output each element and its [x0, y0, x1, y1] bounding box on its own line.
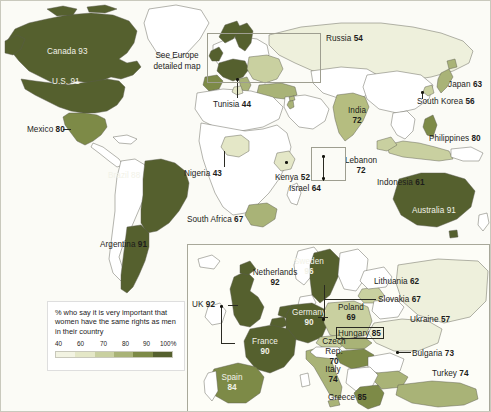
label-poland-value: 69: [346, 313, 355, 322]
country-south-africa: [245, 203, 277, 227]
label-bulgaria-name: Bulgaria: [412, 349, 442, 358]
leader-line-bulgaria: [399, 352, 411, 353]
label-argentina: Argentina 91: [100, 240, 147, 250]
legend-swatch-1: [56, 352, 75, 357]
label-israel-name: Israel: [289, 184, 309, 193]
label-sweden-name: Sweden: [294, 257, 324, 266]
label-canada: Canada 93: [47, 47, 88, 57]
leader-line-czech-v: [324, 298, 325, 320]
label-poland: Poland 69: [330, 303, 372, 323]
island-iceland: [198, 255, 220, 269]
dot-tunisia: [236, 78, 239, 81]
leader-line-tunisia: [237, 80, 238, 98]
label-argentina-value: 91: [138, 240, 147, 249]
label-lithuania-value: 62: [410, 277, 419, 286]
legend-color-bar: [55, 351, 173, 358]
label-india-value: 72: [352, 116, 361, 125]
legend-tick-40: 40: [55, 340, 62, 347]
label-ukraine: Ukraine 57: [410, 315, 450, 325]
label-nigeria: Nigeria 43: [184, 169, 222, 179]
label-germany: Germany 90: [284, 308, 334, 328]
legend-swatch-6: [153, 352, 172, 357]
country-indonesia: [387, 141, 453, 161]
label-turkey: Turkey 74: [432, 369, 469, 379]
label-italy: Italy 74: [316, 365, 350, 385]
label-greece-value: 85: [357, 393, 366, 402]
legend-title: % who say it is very important that wome…: [55, 308, 177, 336]
europe-detail-inset: UK 92 Netherlands 92 Sweden 96 Germany 9…: [187, 244, 490, 412]
label-australia: Australia 91: [412, 206, 456, 216]
label-south-africa-value: 67: [234, 215, 243, 224]
label-brazil: Brazil 88: [108, 171, 140, 181]
label-south-korea: South Korea 56: [417, 97, 475, 107]
label-bulgaria: Bulgaria 73: [412, 349, 454, 359]
country-spain-main: [203, 75, 223, 91]
label-lebanon-value: 72: [356, 166, 365, 175]
europe-detail-callout[interactable]: See Europe detailed map: [143, 51, 211, 72]
dot-lebanon: [322, 155, 325, 158]
label-slovakia: Slovakia 67: [378, 295, 421, 305]
country-new-zealand: [478, 213, 489, 231]
region-indochina: [391, 111, 415, 139]
label-india-name: India: [348, 106, 366, 115]
label-spain-name: Spain: [221, 373, 242, 382]
label-us: U.S. 91: [52, 77, 80, 87]
legend-ticks: 40 60 70 80 90 100%: [55, 340, 177, 350]
label-slovakia-name: Slovakia: [378, 295, 409, 304]
label-nigeria-value: 43: [213, 169, 222, 178]
europe-callout-line2: detailed map: [154, 62, 201, 71]
label-uk: UK 92: [192, 300, 215, 310]
label-france-value: 90: [260, 347, 269, 356]
label-philippines: Philippines 80: [429, 134, 481, 144]
legend-tick-80: 80: [122, 340, 129, 347]
label-philippines-value: 80: [471, 134, 480, 143]
label-france: France 90: [242, 337, 288, 357]
legend-swatch-3: [95, 352, 114, 357]
label-nigeria-name: Nigeria: [184, 169, 210, 178]
label-kenya-name: Kenya: [275, 173, 298, 182]
legend-swatch-2: [75, 352, 94, 357]
label-south-korea-value: 56: [465, 97, 474, 106]
label-russia-value: 54: [354, 34, 363, 43]
label-uk-value: 92: [206, 300, 215, 309]
label-japan-value: 63: [473, 80, 482, 89]
label-tunisia-value: 44: [242, 100, 251, 109]
label-france-name: France: [252, 337, 278, 346]
label-israel: Israel 64: [289, 184, 321, 194]
label-greece-name: Greece: [328, 393, 355, 402]
legend-swatch-5: [133, 352, 152, 357]
legend-tick-70: 70: [100, 340, 107, 347]
leader-line-slovakia-h: [324, 299, 376, 300]
label-uk-name: UK: [192, 300, 203, 309]
map-figure: UK 92 Netherlands 92 Sweden 96 Germany 9…: [0, 0, 491, 412]
country-turkey: [396, 381, 478, 407]
label-italy-value: 74: [328, 375, 337, 384]
island-sardinia: [300, 373, 310, 387]
label-sweden-value: 96: [304, 267, 313, 276]
label-lebanon-name: Lebanon: [345, 156, 377, 165]
country-lebanon: [289, 96, 295, 101]
island-tasmania: [449, 230, 458, 238]
label-greece: Greece 85: [328, 393, 367, 403]
label-japan: Japan 63: [448, 80, 482, 90]
legend-tick-90: 90: [143, 340, 150, 347]
country-japan-north: [447, 59, 457, 69]
label-lithuania: Lithuania 62: [374, 277, 419, 287]
label-lithuania-name: Lithuania: [374, 277, 408, 286]
country-russia-west: [396, 259, 488, 323]
leader-line-mexico: [63, 129, 71, 130]
label-russia: Russia 54: [326, 34, 363, 44]
label-lebanon: Lebanon 72: [339, 156, 383, 176]
europe-callout-line1: See Europe: [155, 51, 198, 60]
label-germany-value: 90: [304, 318, 313, 327]
label-spain: Spain 84: [212, 373, 252, 393]
label-russia-name: Russia: [326, 34, 351, 43]
label-tunisia: Tunisia 44: [213, 100, 251, 110]
leader-line-nigeria: [224, 151, 225, 167]
leader-line-czech-stem: [221, 307, 222, 343]
leader-line-slovakia-v: [324, 285, 325, 299]
leader-line-south-korea: [422, 93, 423, 99]
legend-tick-60: 60: [77, 340, 84, 347]
label-czech-value: 70: [329, 357, 338, 366]
leader-line-czech-foot: [221, 343, 235, 344]
